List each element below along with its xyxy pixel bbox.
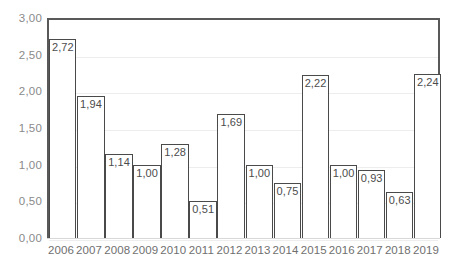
x-axis-tick-label: 2019 (410, 244, 442, 256)
bar-value-label: 1,00 (333, 168, 355, 180)
bar-value-label: 2,22 (305, 78, 327, 90)
bar-slot: 1,00 (246, 20, 273, 238)
bar-value-label: 0,51 (192, 204, 214, 216)
bar-series: 2,721,941,141,001,280,511,691,000,752,22… (49, 20, 438, 238)
bar-slot: 1,14 (105, 20, 132, 238)
bar-slot: 0,51 (189, 20, 216, 238)
bar-slot: 0,75 (274, 20, 301, 238)
plot-area: 2,721,941,141,001,280,511,691,000,752,22… (47, 18, 440, 238)
bar-value-label: 1,00 (136, 168, 158, 180)
bar-value-label: 1,00 (249, 168, 271, 180)
bar[interactable]: 1,94 (77, 96, 104, 238)
bar[interactable]: 0,51 (189, 201, 216, 238)
bar[interactable]: 2,22 (302, 75, 329, 238)
bar[interactable]: 1,00 (246, 165, 273, 238)
x-axis-baseline (47, 238, 440, 239)
bar-slot: 1,94 (77, 20, 104, 238)
y-axis-tick-label: 1,50 (19, 122, 42, 134)
bar-value-label: 1,94 (80, 99, 102, 111)
bar-value-label: 1,14 (108, 157, 130, 169)
bar-slot: 1,69 (217, 20, 244, 238)
y-axis-tick-label: 0,50 (19, 195, 42, 207)
bar-slot: 0,93 (358, 20, 385, 238)
bar[interactable]: 0,63 (386, 192, 413, 238)
bar-value-label: 0,63 (389, 195, 411, 207)
bar[interactable]: 1,28 (161, 144, 188, 238)
bar[interactable]: 1,69 (217, 114, 244, 238)
y-axis-tick-label: 3,00 (19, 12, 42, 24)
bar-value-label: 2,72 (52, 42, 74, 54)
y-axis-tick-label: 1,00 (19, 159, 42, 171)
bar[interactable]: 2,72 (49, 39, 76, 238)
bar-value-label: 1,28 (164, 147, 186, 159)
bar-value-label: 1,69 (220, 117, 242, 129)
gridline (49, 240, 438, 241)
bar-value-label: 2,24 (417, 77, 439, 89)
y-axis: 0,000,501,001,502,002,503,00 (0, 0, 42, 275)
bar-slot: 1,28 (161, 20, 188, 238)
y-axis-tick-label: 0,00 (19, 232, 42, 244)
x-axis: 2006200720082009201020112012201320142015… (47, 244, 440, 264)
bar-slot: 2,22 (302, 20, 329, 238)
bar-slot: 0,63 (386, 20, 413, 238)
bar[interactable]: 1,00 (133, 165, 160, 238)
bar-value-label: 0,75 (277, 186, 299, 198)
bar[interactable]: 1,00 (330, 165, 357, 238)
bar-chart: 0,000,501,001,502,002,503,00 2,721,941,1… (0, 0, 457, 275)
y-axis-tick-label: 2,50 (19, 49, 42, 61)
y-axis-tick-label: 2,00 (19, 85, 42, 97)
bar[interactable]: 1,14 (105, 154, 132, 238)
bar[interactable]: 2,24 (414, 74, 441, 238)
bar-slot: 2,24 (414, 20, 441, 238)
bar[interactable]: 0,75 (274, 183, 301, 238)
bar-slot: 2,72 (49, 20, 76, 238)
bar-slot: 1,00 (133, 20, 160, 238)
bar-slot: 1,00 (330, 20, 357, 238)
bar[interactable]: 0,93 (358, 170, 385, 238)
bar-value-label: 0,93 (361, 173, 383, 185)
